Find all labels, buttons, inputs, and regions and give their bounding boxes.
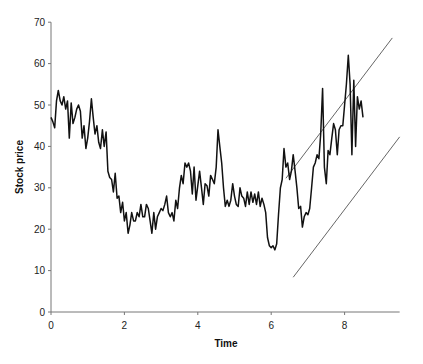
y-tick-label: 40	[34, 141, 46, 152]
stock-price-chart: 01020304050607002468 Time Stock price	[0, 0, 423, 364]
price-series	[51, 55, 363, 250]
trend-channel	[286, 38, 400, 277]
x-tick-label: 2	[122, 320, 128, 331]
x-tick-label: 4	[195, 320, 201, 331]
x-tick-label: 8	[342, 320, 348, 331]
y-tick-label: 10	[34, 265, 46, 276]
y-tick-label: 50	[34, 100, 46, 111]
x-tick-label: 0	[48, 320, 54, 331]
y-tick-label: 0	[39, 307, 45, 318]
price-line	[51, 55, 363, 250]
y-tick-label: 60	[34, 58, 46, 69]
x-axis-title: Time	[214, 338, 238, 349]
y-tick-label: 70	[34, 17, 46, 28]
y-tick-label: 30	[34, 182, 46, 193]
y-axis-title: Stock price	[14, 140, 25, 194]
trend-channel-upper-line	[286, 38, 392, 178]
x-tick-label: 6	[268, 320, 274, 331]
y-tick-label: 20	[34, 224, 46, 235]
